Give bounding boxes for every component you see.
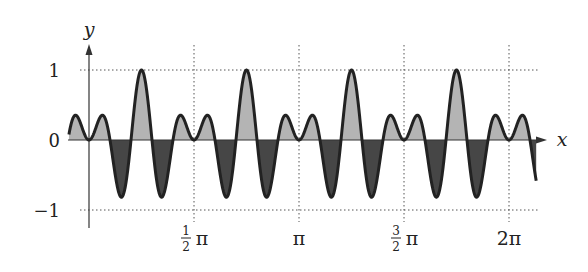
- y-axis-label: y: [83, 18, 95, 40]
- svg-text:π: π: [406, 227, 419, 249]
- x-axis-label: x: [557, 128, 568, 150]
- svg-text:π: π: [196, 227, 209, 249]
- y-tick-label-0: 0: [49, 130, 60, 151]
- svg-text:2: 2: [392, 240, 400, 254]
- y-tick-label-1: 1: [49, 60, 60, 81]
- y-tick-label-minus1: −1: [33, 200, 60, 221]
- svg-text:1: 1: [182, 224, 190, 238]
- x-tick-label-three-half-pi: 3 2 π: [391, 224, 418, 254]
- x-tick-label-pi: π: [293, 227, 306, 249]
- x-tick-label-half-pi: 1 2 π: [181, 224, 208, 254]
- x-axis-arrow-icon: [536, 137, 547, 144]
- y-axis-arrow-icon: [86, 44, 93, 55]
- function-plot: y x 1 0 −1 1 2 π π 3 2 π 2π: [0, 0, 588, 272]
- svg-text:3: 3: [392, 224, 400, 238]
- svg-text:2: 2: [182, 240, 190, 254]
- x-tick-label-two-pi: 2π: [497, 227, 522, 249]
